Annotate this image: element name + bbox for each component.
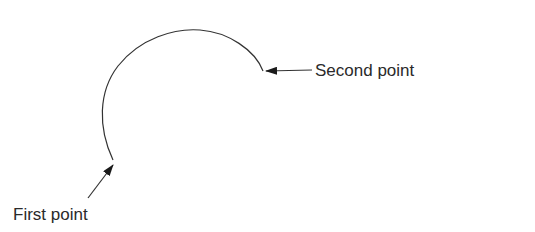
arc-diagram bbox=[0, 0, 535, 232]
second-point-label: Second point bbox=[315, 62, 414, 79]
arc-curve bbox=[102, 30, 263, 160]
first-point-label: First point bbox=[13, 206, 88, 223]
first-point-arrow bbox=[88, 165, 113, 198]
second-point-arrow bbox=[266, 70, 312, 71]
